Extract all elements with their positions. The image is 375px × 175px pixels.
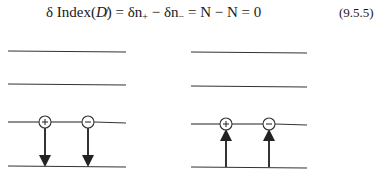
minus-charge-icon	[263, 118, 275, 130]
level-line	[191, 86, 307, 87]
spectral-flow-diagram	[0, 0, 375, 175]
level-line	[191, 52, 307, 53]
minus-charge-icon	[82, 116, 94, 128]
level-line	[8, 84, 126, 85]
right-panel	[191, 52, 307, 168]
left-panel	[8, 51, 126, 167]
level-line	[8, 51, 126, 52]
level-line	[8, 166, 126, 167]
plus-charge-icon	[39, 116, 51, 128]
plus-charge-icon	[220, 118, 232, 130]
level-line	[191, 167, 307, 168]
level-line	[94, 122, 126, 123]
level-line	[275, 124, 307, 125]
